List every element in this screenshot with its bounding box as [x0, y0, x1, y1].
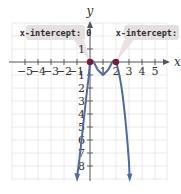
y-axis-label: y — [86, 4, 94, 18]
y-tick-label: 2 — [78, 82, 85, 95]
x-intercept-point-2 — [113, 59, 119, 65]
curve-arrow-left-icon — [75, 173, 81, 182]
callout-right: x-intercept: 2 — [116, 25, 181, 40]
callout-right-text: x-intercept: 2 — [116, 28, 181, 38]
x-axis-arrow-icon — [163, 59, 170, 65]
x-tick-label: 5 — [152, 65, 159, 78]
y-tick-label: 3 — [78, 95, 85, 108]
x-intercept-point-0 — [87, 59, 93, 65]
y-tick-label: 1 — [78, 69, 85, 82]
curve-arrow-right-icon — [127, 174, 132, 183]
callout-left: x-intercept: 0 — [20, 25, 92, 40]
x-axis-label: x — [174, 55, 181, 69]
callout-pointer-right — [116, 40, 134, 62]
polynomial-graph: −5 −4 −3 −2 −1 1 2 3 4 5 x 1 1 2 3 4 5 — [0, 0, 181, 194]
x-tick-label: 3 — [126, 65, 133, 78]
x-tick-label: 4 — [139, 65, 146, 78]
callout-left-text: x-intercept: 0 — [20, 28, 92, 38]
y-tick-label: 1 — [78, 43, 85, 56]
